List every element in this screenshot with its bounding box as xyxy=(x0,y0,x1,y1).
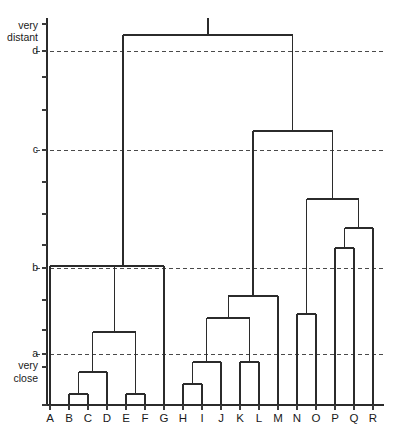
leaf-label-P: P xyxy=(331,412,339,424)
leaf-label-O: O xyxy=(312,412,321,424)
y-axis-top-label-line1: very xyxy=(18,19,39,31)
leaf-label-F: F xyxy=(141,412,148,424)
y-axis-threshold-label-c: c xyxy=(33,143,38,155)
leaf-label-E: E xyxy=(122,412,130,424)
y-axis-threshold-label-d: d xyxy=(32,44,38,56)
y-axis-bottom-label-line2: close xyxy=(13,372,38,384)
leaf-label-B: B xyxy=(65,412,73,424)
leaf-label-I: I xyxy=(200,412,203,424)
leaf-label-M: M xyxy=(273,412,283,424)
leaf-ticks-group xyxy=(50,405,373,410)
leaf-label-C: C xyxy=(84,412,92,424)
leaf-label-R: R xyxy=(369,412,377,424)
threshold-lines-group xyxy=(36,51,384,354)
y-axis-bottom-label-line1: very xyxy=(18,359,39,371)
y-axis-top-label-line2: distant xyxy=(7,31,38,43)
dendrogram-tree-group xyxy=(50,18,373,405)
leaf-label-D: D xyxy=(103,412,111,424)
leaf-label-G: G xyxy=(160,412,169,424)
dendrogram-canvas: verydistantdcbaveryclose ABCDEFGHIJKLMNO… xyxy=(0,0,394,435)
leaf-label-H: H xyxy=(179,412,187,424)
leaf-label-L: L xyxy=(256,412,263,424)
y-axis-threshold-label-a: a xyxy=(32,347,38,359)
y-axis-threshold-label-b: b xyxy=(32,261,38,273)
leaf-label-K: K xyxy=(236,412,244,424)
y-axis-labels-group: verydistantdcbaveryclose xyxy=(7,19,39,384)
leaf-labels-group: ABCDEFGHIJKLMNOPQR xyxy=(46,412,377,424)
leaf-label-Q: Q xyxy=(350,412,359,424)
leaf-label-N: N xyxy=(293,412,301,424)
leaf-label-J: J xyxy=(218,412,224,424)
leaf-label-A: A xyxy=(46,412,54,424)
dendrogram-figure: verydistantdcbaveryclose ABCDEFGHIJKLMNO… xyxy=(0,0,394,435)
